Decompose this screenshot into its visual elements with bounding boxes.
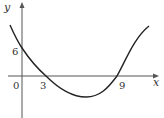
y-axis-label: y [3,1,11,14]
graph-canvas: y x 6 0 3 9 [0,0,164,118]
y-axis-arrow-icon [20,2,25,8]
y-tick-6: 6 [12,46,18,57]
function-graph: y x 6 0 3 9 [0,0,164,118]
x-tick-3: 3 [40,80,46,91]
origin-label: 0 [13,80,19,91]
x-axis-label: x [153,76,160,89]
x-tick-9: 9 [119,80,125,91]
function-curve [10,25,149,97]
